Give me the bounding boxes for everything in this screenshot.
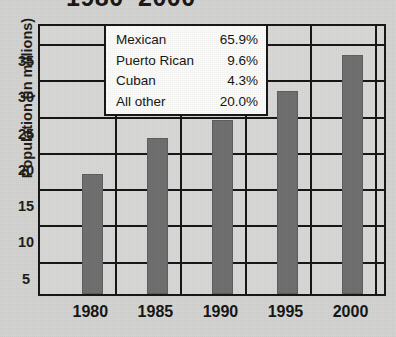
- chart-title: 1980–2000: [66, 0, 196, 12]
- legend-row: Cuban4.3%: [116, 71, 258, 92]
- x-tick-1985: 1985: [125, 303, 185, 321]
- y-tick-20: 20: [4, 162, 48, 178]
- bar-1980: [82, 174, 103, 294]
- y-axis-label: Population (in millions): [19, 0, 35, 223]
- bar-1995: [277, 91, 298, 294]
- gridline-x-5: [375, 26, 377, 294]
- x-tick-1995: 1995: [255, 303, 315, 321]
- legend-row: Mexican65.9%: [116, 30, 258, 51]
- x-tick-1990: 1990: [190, 303, 250, 321]
- y-tick-25: 25: [4, 126, 48, 142]
- gridline-x-4: [310, 26, 312, 294]
- x-tick-1980: 1980: [60, 303, 120, 321]
- bar-1990: [212, 120, 233, 294]
- y-tick-5: 5: [4, 271, 48, 287]
- gridline-y-25: [40, 117, 384, 119]
- legend-percent: 4.3%: [227, 71, 258, 92]
- legend-percent: 65.9%: [220, 30, 258, 51]
- y-tick-15: 15: [4, 198, 48, 214]
- legend-row: All other20.0%: [116, 92, 258, 113]
- y-tick-30: 30: [4, 89, 48, 105]
- legend-percent: 9.6%: [227, 51, 258, 72]
- legend-label: Mexican: [116, 30, 166, 51]
- bar-1985: [147, 138, 168, 294]
- legend-label: Cuban: [116, 71, 156, 92]
- ethnicity-breakdown-legend: Mexican65.9%Puerto Rican9.6%Cuban4.3%All…: [104, 24, 268, 116]
- legend-label: Puerto Rican: [116, 51, 194, 72]
- legend-row: Puerto Rican9.6%: [116, 51, 258, 72]
- legend-label: All other: [116, 92, 166, 113]
- x-tick-2000: 2000: [321, 303, 381, 321]
- y-tick-10: 10: [4, 234, 48, 250]
- legend-percent: 20.0%: [220, 92, 258, 113]
- bar-2000: [342, 55, 363, 294]
- y-tick-35: 35: [4, 53, 48, 69]
